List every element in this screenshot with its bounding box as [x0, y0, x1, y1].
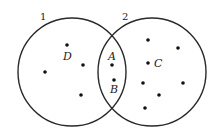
set-label-2: 2 — [122, 11, 128, 22]
point-unlabeled — [141, 81, 145, 85]
point-unlabeled — [181, 81, 185, 85]
point-unlabeled — [79, 93, 83, 97]
point-C — [146, 61, 150, 65]
point-label-C: C — [154, 57, 163, 70]
point-label-D: D — [62, 50, 72, 63]
point-unlabeled — [176, 46, 180, 50]
points — [43, 38, 185, 110]
set-label-1: 1 — [40, 11, 46, 22]
point-label-B: B — [109, 83, 118, 96]
point-label-A: A — [107, 50, 116, 63]
point-B — [112, 78, 116, 82]
point-unlabeled — [146, 38, 150, 42]
point-unlabeled — [143, 106, 147, 110]
point-unlabeled — [81, 63, 85, 67]
point-unlabeled — [43, 70, 47, 74]
point-D — [65, 43, 69, 47]
circle-1 — [18, 18, 126, 126]
point-A — [110, 63, 114, 67]
point-unlabeled — [157, 93, 161, 97]
venn-diagram: 12DABC — [0, 0, 218, 139]
circle-2 — [98, 18, 206, 126]
